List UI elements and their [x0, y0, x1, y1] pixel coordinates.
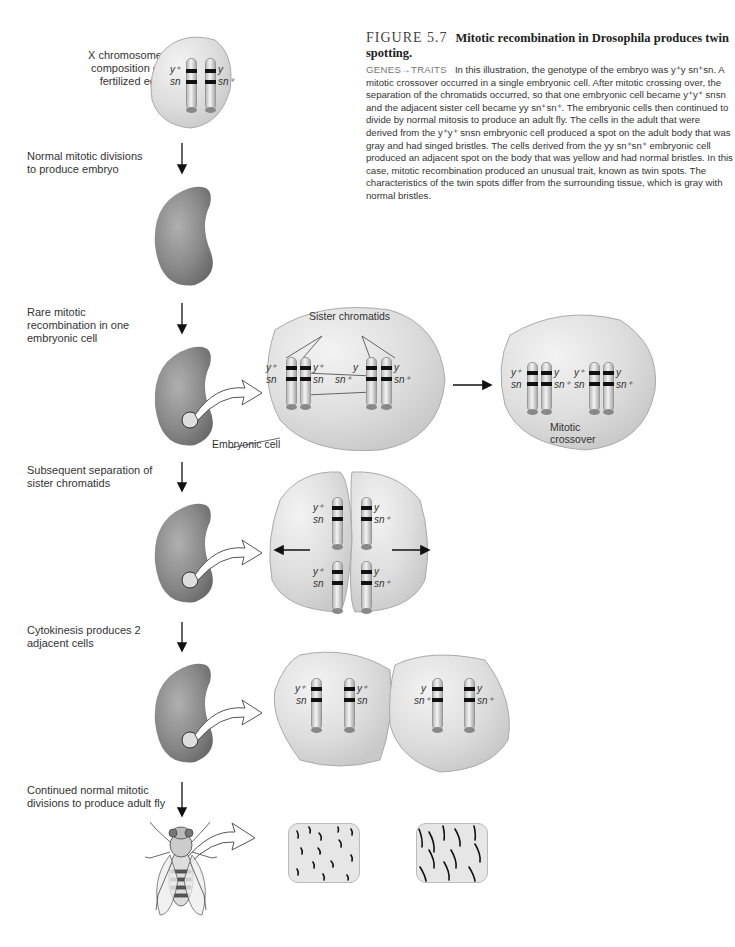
gene-label: sn [313, 578, 324, 589]
normal-bristles-icon [417, 824, 487, 882]
gene-label: sn [266, 374, 277, 385]
chromatid [527, 362, 538, 412]
singed-bristles-icon [289, 824, 359, 882]
gene-label: sn⁺ [374, 514, 390, 525]
gene-label: sn [170, 76, 181, 87]
gene-label: sn [296, 695, 307, 706]
gene-label: y⁺ [313, 566, 323, 577]
normal-bristles-spot [416, 823, 488, 883]
gene-label: y [374, 566, 379, 577]
gene-label: sn [313, 374, 324, 385]
gene-label: y [554, 367, 559, 378]
gene-label: sn [574, 379, 585, 390]
gene-label: y [218, 64, 223, 75]
gene-label: y⁺ [313, 362, 323, 373]
gene-label: sn⁺ [335, 374, 351, 385]
gene-label: sn⁺ [554, 379, 570, 390]
gene-label: y⁺ [574, 367, 584, 378]
chromatid [464, 678, 475, 730]
embryo-3 [155, 504, 213, 603]
gene-label: y⁺ [295, 683, 305, 694]
gene-label: y⁺ [170, 64, 180, 75]
gene-label: y [374, 502, 379, 513]
mitotic-crossover-label: Mitotic crossover [550, 421, 620, 445]
gene-label: y [616, 367, 621, 378]
gene-label: sn⁺ [477, 695, 493, 706]
chromatid [332, 497, 343, 547]
chromatid [381, 357, 392, 407]
chromatid [432, 678, 443, 730]
chromatid [366, 357, 377, 407]
embryo-4 [155, 664, 213, 763]
chromatid [361, 497, 372, 547]
gene-label: sn⁺ [616, 379, 632, 390]
gene-label: y⁺ [511, 367, 521, 378]
sister-chromatids-label: Sister chromatids [309, 310, 390, 322]
daughter-cell-left [274, 652, 391, 766]
gene-label: sn⁺ [414, 695, 430, 706]
gene-label: sn⁺ [394, 374, 410, 385]
embryo-2 [155, 347, 213, 446]
gene-label: y⁺ [313, 502, 323, 513]
gene-label: y⁺ [357, 683, 367, 694]
singed-bristles-spot [288, 823, 360, 883]
gene-label: sn⁺ [374, 578, 390, 589]
chromatid [589, 362, 600, 412]
chromatid [541, 362, 552, 412]
gene-label: sn [357, 695, 368, 706]
embryo-1 [155, 187, 213, 286]
zoom-arrows [185, 380, 262, 865]
gene-label: sn⁺ [218, 76, 234, 87]
daughter-cell-right [390, 655, 510, 772]
gene-label: y [421, 683, 426, 694]
gene-label: sn [511, 379, 522, 390]
gene-label: y⁺ [266, 362, 276, 373]
chromatid [311, 678, 322, 730]
adult-fly [145, 822, 217, 915]
embryonic-cell-label: Embryonic cell [212, 438, 280, 450]
diagram-graphics [0, 0, 735, 947]
gene-label: y [353, 362, 358, 373]
chromatid [603, 362, 614, 412]
gene-label: y [394, 362, 399, 373]
chromosome [205, 58, 216, 110]
chromatid [361, 561, 372, 611]
gene-label: y [477, 683, 482, 694]
chromatid [344, 678, 355, 730]
chromosome [186, 58, 197, 110]
chromatid [332, 561, 343, 611]
gene-label: sn [313, 514, 324, 525]
chromatid [300, 357, 311, 407]
chromatid [286, 357, 297, 407]
